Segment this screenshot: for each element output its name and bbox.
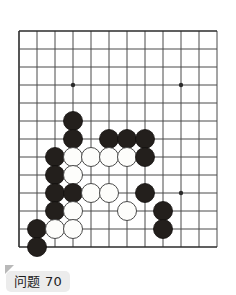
- go-board-area[interactable]: [0, 0, 236, 262]
- stone-black[interactable]: [100, 130, 119, 149]
- stone-black[interactable]: [154, 220, 173, 239]
- stone-black[interactable]: [136, 130, 155, 149]
- go-board[interactable]: [0, 0, 236, 262]
- stone-white[interactable]: [100, 148, 119, 167]
- stone-black[interactable]: [28, 220, 47, 239]
- star-point: [179, 191, 183, 195]
- stone-black[interactable]: [46, 202, 65, 221]
- stone-black[interactable]: [28, 238, 47, 257]
- stone-black[interactable]: [136, 148, 155, 167]
- stone-white[interactable]: [118, 148, 137, 167]
- stone-black[interactable]: [64, 112, 83, 131]
- stone-black[interactable]: [46, 148, 65, 167]
- stone-white[interactable]: [64, 220, 83, 239]
- stone-black[interactable]: [154, 202, 173, 221]
- star-point: [179, 83, 183, 87]
- stone-black[interactable]: [64, 130, 83, 149]
- stone-white[interactable]: [82, 148, 101, 167]
- stone-black[interactable]: [64, 184, 83, 203]
- problem-label: 问题 70: [14, 275, 62, 288]
- stone-black[interactable]: [118, 130, 137, 149]
- stone-white[interactable]: [100, 184, 119, 203]
- caption-bar: 问题 70: [0, 262, 236, 295]
- star-point: [71, 83, 75, 87]
- stone-black[interactable]: [136, 184, 155, 203]
- stone-white[interactable]: [64, 148, 83, 167]
- stone-black[interactable]: [46, 184, 65, 203]
- stone-black[interactable]: [46, 166, 65, 185]
- stone-white[interactable]: [118, 202, 137, 221]
- stone-white[interactable]: [82, 184, 101, 203]
- board-stones[interactable]: [28, 112, 173, 257]
- stone-white[interactable]: [64, 202, 83, 221]
- stone-white[interactable]: [64, 166, 83, 185]
- problem-label-chip: 问题 70: [6, 271, 70, 292]
- go-problem-screen: 问题 70: [0, 0, 236, 295]
- stone-white[interactable]: [46, 220, 65, 239]
